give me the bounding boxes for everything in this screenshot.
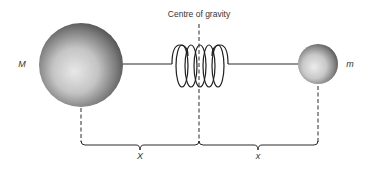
large-mass-sphere — [39, 23, 123, 107]
distance-x-label: x — [255, 151, 261, 161]
centre-of-gravity-diagram: Centre of gravity M m X x — [0, 0, 370, 169]
small-mass-sphere — [298, 44, 338, 84]
brace-X — [81, 141, 199, 150]
centre-of-gravity-label: Centre of gravity — [168, 9, 231, 19]
brace-x — [199, 141, 318, 150]
distance-X-label: X — [136, 151, 144, 161]
small-mass-label: m — [346, 59, 354, 69]
spring-icon — [172, 45, 228, 87]
large-mass-label: M — [18, 59, 26, 69]
